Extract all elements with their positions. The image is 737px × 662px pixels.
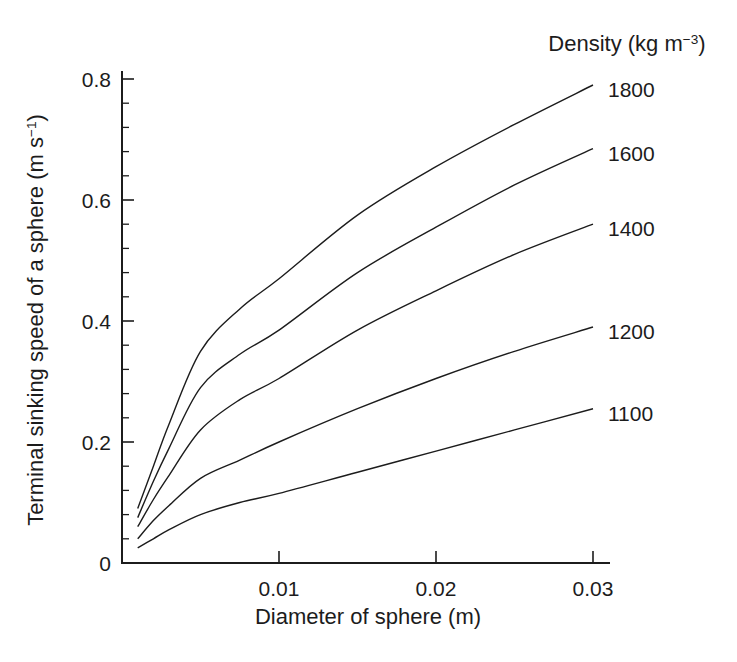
y-axis-title: Terminal sinking speed of a sphere (m s−… — [23, 114, 49, 526]
y-tick-label: 0.4 — [82, 310, 112, 333]
curve-label-1800: 1800 — [608, 78, 655, 101]
sinking-speed-chart: 00.20.40.60.80.010.020.03 18001600140012… — [0, 0, 737, 662]
axes — [122, 72, 609, 563]
axis-tick-labels: 00.20.40.60.80.010.020.03 — [82, 68, 614, 601]
legend-title-superscript: −3 — [683, 32, 699, 47]
y-axis-title-superscript: −1 — [24, 121, 39, 137]
y-axis-title-text: Terminal sinking speed of a sphere (m s — [23, 137, 48, 526]
x-tick-label: 0.02 — [416, 577, 457, 600]
curve-end-labels: 18001600140012001100 — [608, 78, 655, 425]
x-tick-label: 0.03 — [573, 577, 614, 600]
curve-label-1100: 1100 — [608, 402, 653, 425]
curve-density-1800 — [138, 85, 593, 509]
legend-title-text: Density (kg m — [548, 31, 682, 56]
y-tick-label: 0.6 — [82, 189, 111, 212]
x-axis-title: Diameter of sphere (m) — [255, 604, 481, 630]
curve-label-1200: 1200 — [608, 320, 655, 343]
x-tick-label: 0.01 — [259, 577, 300, 600]
y-axis-title-close: ) — [23, 114, 48, 121]
curve-density-1200 — [138, 327, 593, 539]
x-axis-title-text: Diameter of sphere (m) — [255, 604, 481, 629]
curve-density-1400 — [138, 224, 593, 527]
curve-label-1600: 1600 — [608, 142, 655, 165]
axis-ticks — [122, 79, 593, 563]
curve-label-1400: 1400 — [608, 217, 655, 240]
y-tick-label: 0.8 — [82, 68, 111, 91]
y-tick-label: 0 — [99, 552, 111, 575]
curve-density-1600 — [138, 149, 593, 518]
figure-terminal-sinking-speed: 00.20.40.60.80.010.020.03 18001600140012… — [0, 0, 737, 662]
curve-density-1100 — [138, 409, 593, 548]
y-tick-label: 0.2 — [82, 431, 111, 454]
density-curves — [138, 85, 593, 548]
axis-spine — [122, 72, 609, 563]
legend-title-close: ) — [698, 31, 705, 56]
legend-title: Density (kg m−3) — [548, 31, 705, 57]
